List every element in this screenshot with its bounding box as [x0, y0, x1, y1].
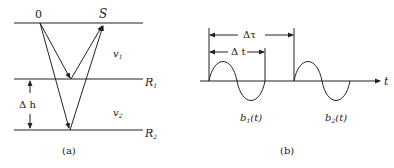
panel-b	[200, 28, 380, 101]
panel-a	[14, 23, 143, 130]
axis-label: t	[384, 75, 389, 88]
wavelet-2-label: b2(t)	[325, 112, 347, 124]
panel-b-labels: Δτ Δ t t b1(t) b2(t) (b)	[231, 29, 389, 156]
reflector-1-label: R1	[144, 76, 157, 89]
ray-down-r1	[40, 23, 70, 78]
source-label: 0	[35, 8, 42, 21]
wavelet-1-label: b1(t)	[240, 112, 262, 124]
caption-a: (a)	[62, 145, 76, 156]
delta-t-label: Δ t	[231, 46, 245, 57]
figure: 0 S v1 v2 R1 R2 Δ h (a) Δτ Δ t t b1(t) b…	[0, 0, 394, 168]
thickness-label: Δ h	[19, 99, 36, 110]
velocity-1-label: v1	[113, 48, 122, 60]
panel-a-labels: 0 S v1 v2 R1 R2 Δ h (a)	[19, 7, 157, 156]
velocity-2-label: v2	[113, 107, 123, 119]
receiver-label: S	[99, 7, 107, 21]
caption-b: (b)	[280, 145, 294, 156]
delta-tau-label: Δτ	[243, 29, 256, 40]
reflector-2-label: R2	[144, 127, 157, 140]
ray-up-r2	[70, 26, 103, 130]
ray-up-r1	[71, 26, 102, 79]
ray-down-r2	[40, 23, 69, 128]
